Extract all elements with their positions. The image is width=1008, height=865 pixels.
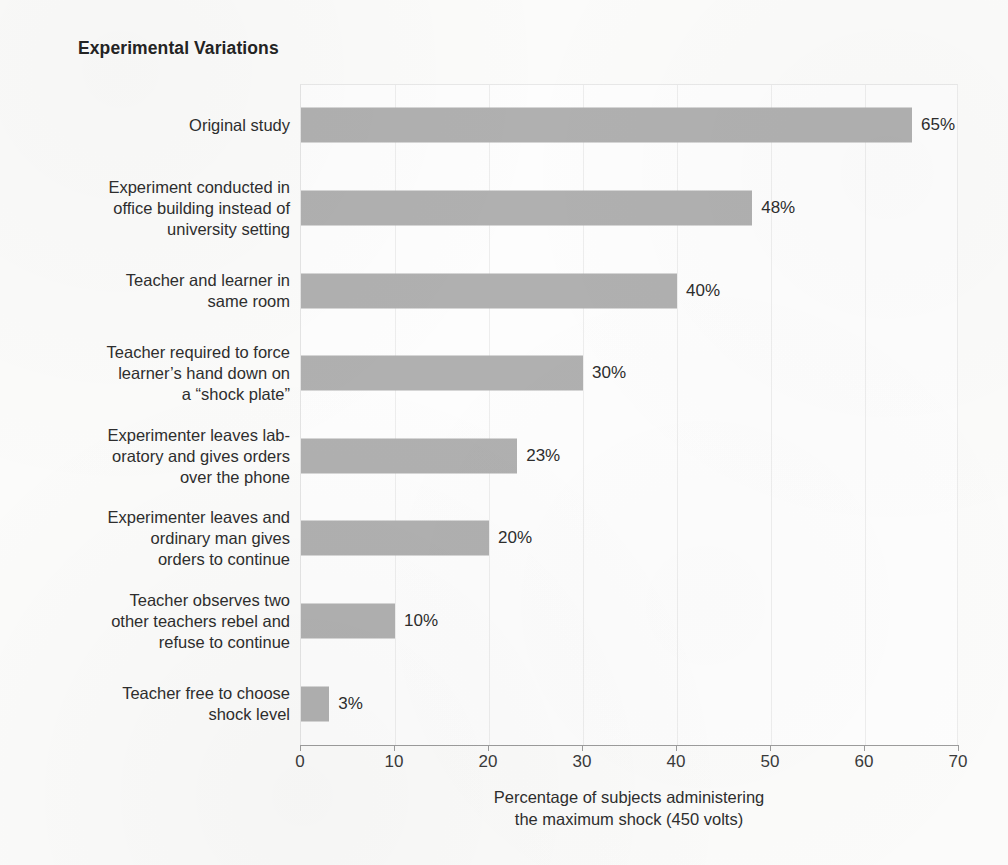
x-axis-caption-line1: Percentage of subjects administering [494,788,765,806]
bar[interactable] [301,356,583,391]
bar-value-label: 40% [686,281,720,301]
tick-mark-60 [864,745,865,751]
gridline-40 [677,85,678,745]
tick-mark-20 [488,745,489,751]
bar-value-label: 10% [404,611,438,631]
category-label: Teacher observes two other teachers rebe… [0,590,290,653]
tick-mark-70 [958,745,959,751]
category-label: Teacher and learner in same room [0,270,290,312]
tick-label-50: 50 [761,752,780,772]
tick-label-20: 20 [479,752,498,772]
bar-value-label: 65% [921,115,955,135]
plot-area [300,84,958,745]
bar-value-label: 3% [338,694,363,714]
bar[interactable] [301,604,395,639]
category-label: Teacher required to force learner’s hand… [0,342,290,405]
page-title: Experimental Variations [78,38,279,59]
bar-value-label: 20% [498,528,532,548]
bar[interactable] [301,190,752,225]
bar[interactable] [301,108,912,143]
tick-label-10: 10 [385,752,404,772]
tick-label-60: 60 [855,752,874,772]
gridline-50 [771,85,772,745]
category-label: Experimenter leaves lab- oratory and giv… [0,424,290,487]
bar[interactable] [301,438,517,473]
gridline-10 [395,85,396,745]
tick-label-70: 70 [949,752,968,772]
x-axis-line [300,745,959,746]
bar-value-label: 23% [526,446,560,466]
gridline-60 [865,85,866,745]
bar[interactable] [301,273,677,308]
tick-mark-40 [676,745,677,751]
bar-value-label: 48% [761,198,795,218]
gridline-30 [583,85,584,745]
tick-mark-10 [394,745,395,751]
tick-mark-0 [300,745,301,751]
tick-mark-30 [582,745,583,751]
gridline-20 [489,85,490,745]
category-label: Experimenter leaves and ordinary man giv… [0,507,290,570]
tick-label-30: 30 [573,752,592,772]
bar[interactable] [301,521,489,556]
tick-label-0: 0 [295,752,304,772]
category-label: Original study [0,115,290,136]
x-axis-caption-line2: the maximum shock (450 volts) [515,810,743,828]
category-label: Experiment conducted in office building … [0,176,290,239]
x-axis-caption: Percentage of subjects administeringthe … [300,786,958,830]
tick-mark-50 [770,745,771,751]
bar-value-label: 30% [592,363,626,383]
bar[interactable] [301,686,329,721]
category-label: Teacher free to choose shock level [0,683,290,725]
tick-label-40: 40 [667,752,686,772]
